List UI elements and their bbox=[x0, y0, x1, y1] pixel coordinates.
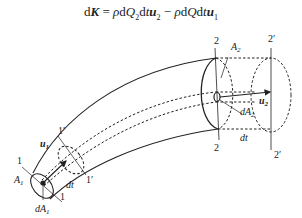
section-1p-line bbox=[58, 136, 86, 175]
label-dt-right: dt bbox=[240, 132, 248, 143]
label-u1: u1 bbox=[40, 138, 49, 151]
section-2-line bbox=[215, 48, 219, 140]
label-u2: u2 bbox=[259, 95, 269, 108]
label-dt-left: dt bbox=[66, 179, 74, 190]
label-dA2: dA2 bbox=[240, 106, 255, 119]
label-section-1p-top: 1′ bbox=[58, 125, 65, 136]
streamline-upper bbox=[42, 92, 216, 180]
label-section-2p-top: 2′ bbox=[268, 33, 275, 44]
label-section-2-top: 2 bbox=[214, 35, 219, 46]
label-A1: A1 bbox=[13, 174, 24, 187]
stream-tube-diagram: 2 2 2′ 2′ A2 u2 dA2 dt 1′ 1′ 1 1 u1 A1 d… bbox=[0, 0, 302, 218]
streamline-lower bbox=[44, 102, 216, 186]
label-section-2-bottom: 2 bbox=[214, 142, 219, 153]
label-section-2p-bottom: 2′ bbox=[274, 149, 281, 160]
label-section-1-top: 1 bbox=[17, 155, 22, 166]
tube-lower-wall bbox=[50, 129, 218, 199]
label-dA1: dA1 bbox=[35, 203, 50, 216]
label-A2: A2 bbox=[230, 41, 241, 54]
u1-arrow bbox=[44, 161, 66, 182]
label-section-1p-bottom: 1′ bbox=[86, 174, 93, 185]
label-section-1-bottom: 1 bbox=[60, 191, 65, 202]
tube-upper-wall bbox=[33, 58, 216, 173]
